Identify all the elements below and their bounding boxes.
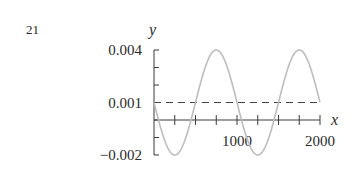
y-tick-label: 0.004 [108,42,142,58]
y-tick-label: 0.001 [108,95,142,111]
x-axis-label: x [330,111,338,128]
y-tick-label: −0.002 [100,147,142,163]
x-tick-label: 2000 [305,133,335,149]
chart-plot: 21 0.0040.001−0.00210002000 y x [0,0,360,171]
page-number: 21 [26,22,39,37]
y-axis-label: y [147,21,157,39]
